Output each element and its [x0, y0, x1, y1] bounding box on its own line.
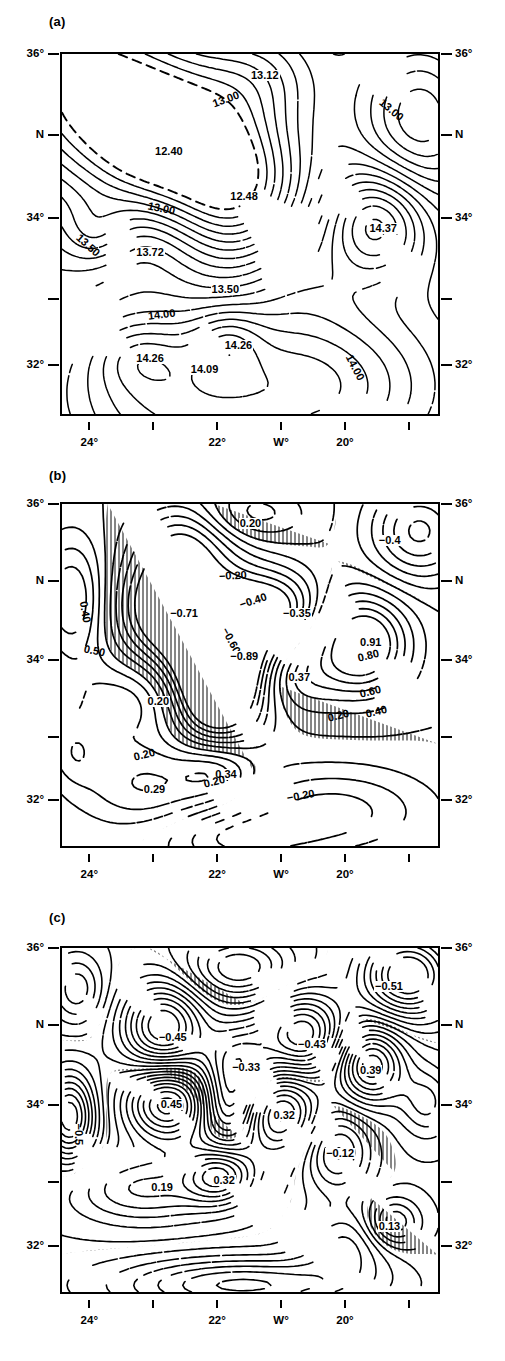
y-tick-label-right-0: 36° [455, 47, 497, 59]
y-tick-left-2 [48, 1104, 59, 1106]
y-tick-left-3 [48, 736, 59, 738]
y-tick-label-left-0: 36° [2, 497, 44, 509]
x-tick-label-4: 20° [330, 1314, 360, 1326]
x-tick-label-3: W° [266, 436, 296, 448]
contour-label: 0.20 [147, 696, 170, 707]
y-tick-label-left-1: N [2, 574, 44, 586]
contour-label: 13.72 [135, 247, 165, 258]
contour-label: 0.32 [212, 1175, 235, 1186]
y-tick-right-4 [441, 799, 452, 801]
contour-label: −0.20 [218, 569, 248, 582]
y-tick-left-3 [48, 298, 59, 300]
y-tick-right-3 [441, 298, 452, 300]
contour-label: −0.51 [374, 981, 404, 992]
x-tick-0 [88, 854, 90, 862]
y-tick-left-4 [48, 799, 59, 801]
contour-label: −0.89 [229, 651, 259, 662]
panel-a-label: (a) [49, 14, 66, 29]
x-tick-4 [344, 422, 346, 430]
y-tick-right-0 [441, 503, 452, 505]
y-tick-left-0 [48, 53, 59, 55]
y-tick-right-1 [441, 1024, 452, 1026]
y-tick-label-left-0: 36° [2, 47, 44, 59]
x-tick-5 [408, 854, 410, 862]
contour-label: −0.4 [378, 535, 402, 546]
contour-label: 0.19 [150, 1182, 173, 1193]
contour-label: 0.39 [359, 1065, 382, 1076]
contour-label: −0.43 [297, 1039, 327, 1050]
y-tick-label-right-2: 34° [455, 653, 497, 665]
contour-label: 14.26 [224, 340, 254, 351]
y-tick-label-right-4: 32° [455, 358, 497, 370]
hatched-region [62, 948, 438, 1255]
x-tick-label-4: 20° [330, 436, 360, 448]
contour-label: 12.48 [229, 191, 259, 202]
contour-plot-b [60, 502, 440, 848]
x-tick-3 [280, 422, 282, 430]
contour-label: 0.45 [160, 1099, 183, 1110]
contour-label: 13.12 [250, 70, 280, 81]
x-tick-0 [88, 1300, 90, 1308]
y-tick-right-2 [441, 217, 452, 219]
contour-label: −0.33 [231, 1062, 261, 1073]
y-tick-label-left-4: 32° [2, 358, 44, 370]
x-tick-4 [344, 854, 346, 862]
x-tick-5 [408, 1300, 410, 1308]
panel-b: (b) 24°22°W°20°36°36°NN34°34°32°32°0.20−… [0, 460, 505, 890]
x-tick-2 [216, 1300, 218, 1308]
x-tick-label-0: 24° [74, 436, 104, 448]
contour-label: 0.91 [359, 637, 382, 648]
y-tick-label-right-2: 34° [455, 1098, 497, 1110]
y-tick-label-right-2: 34° [455, 211, 497, 223]
panel-c: (c) 24°22°W°20°36°36°NN34°34°32°32°−0.51… [0, 890, 505, 1361]
contour-label: 0.20 [239, 518, 262, 529]
x-tick-label-2: 22° [202, 436, 232, 448]
y-tick-right-1 [441, 134, 452, 136]
contour-label: 0.37 [288, 672, 311, 683]
y-tick-right-4 [441, 364, 452, 366]
y-tick-right-2 [441, 1104, 452, 1106]
y-tick-label-left-1: N [2, 1018, 44, 1030]
x-tick-1 [152, 854, 154, 862]
y-tick-label-right-0: 36° [455, 941, 497, 953]
x-tick-label-3: W° [266, 1314, 296, 1326]
x-tick-0 [88, 422, 90, 430]
y-tick-label-left-2: 34° [2, 1098, 44, 1110]
contour-label: 14.09 [190, 364, 220, 375]
contour-label: −0.71 [169, 608, 199, 619]
x-tick-5 [408, 422, 410, 430]
contour-label: 0.32 [273, 1110, 296, 1121]
x-tick-4 [344, 1300, 346, 1308]
x-tick-1 [152, 422, 154, 430]
y-tick-left-4 [48, 1245, 59, 1247]
y-tick-label-left-2: 34° [2, 211, 44, 223]
x-tick-label-0: 24° [74, 1314, 104, 1326]
contour-label: 0.29 [143, 784, 166, 795]
contour-label: 12.40 [154, 146, 184, 157]
y-tick-left-0 [48, 503, 59, 505]
x-tick-3 [280, 1300, 282, 1308]
x-tick-label-4: 20° [330, 868, 360, 880]
y-tick-right-3 [441, 1181, 452, 1183]
x-tick-1 [152, 1300, 154, 1308]
panel-a: (a) 24°22°W°20°36°36°NN34°34°32°32°13.12… [0, 0, 505, 460]
contour-label: 13.50 [211, 284, 241, 295]
x-tick-label-3: W° [266, 868, 296, 880]
y-tick-label-right-1: N [455, 1018, 497, 1030]
x-tick-2 [216, 422, 218, 430]
contour-label: 14.37 [368, 223, 398, 234]
x-tick-2 [216, 854, 218, 862]
y-tick-right-0 [441, 947, 452, 949]
contour-lines [62, 948, 438, 1292]
x-tick-label-2: 22° [202, 1314, 232, 1326]
y-tick-label-left-0: 36° [2, 941, 44, 953]
contour-label: −0.35 [282, 608, 312, 619]
y-tick-left-1 [48, 580, 59, 582]
y-tick-label-right-4: 32° [455, 1239, 497, 1251]
y-tick-label-right-4: 32° [455, 793, 497, 805]
contour-label: 0.13 [378, 1221, 401, 1232]
y-tick-label-left-4: 32° [2, 1239, 44, 1251]
y-tick-right-3 [441, 736, 452, 738]
y-tick-right-4 [441, 1245, 452, 1247]
y-tick-right-1 [441, 580, 452, 582]
